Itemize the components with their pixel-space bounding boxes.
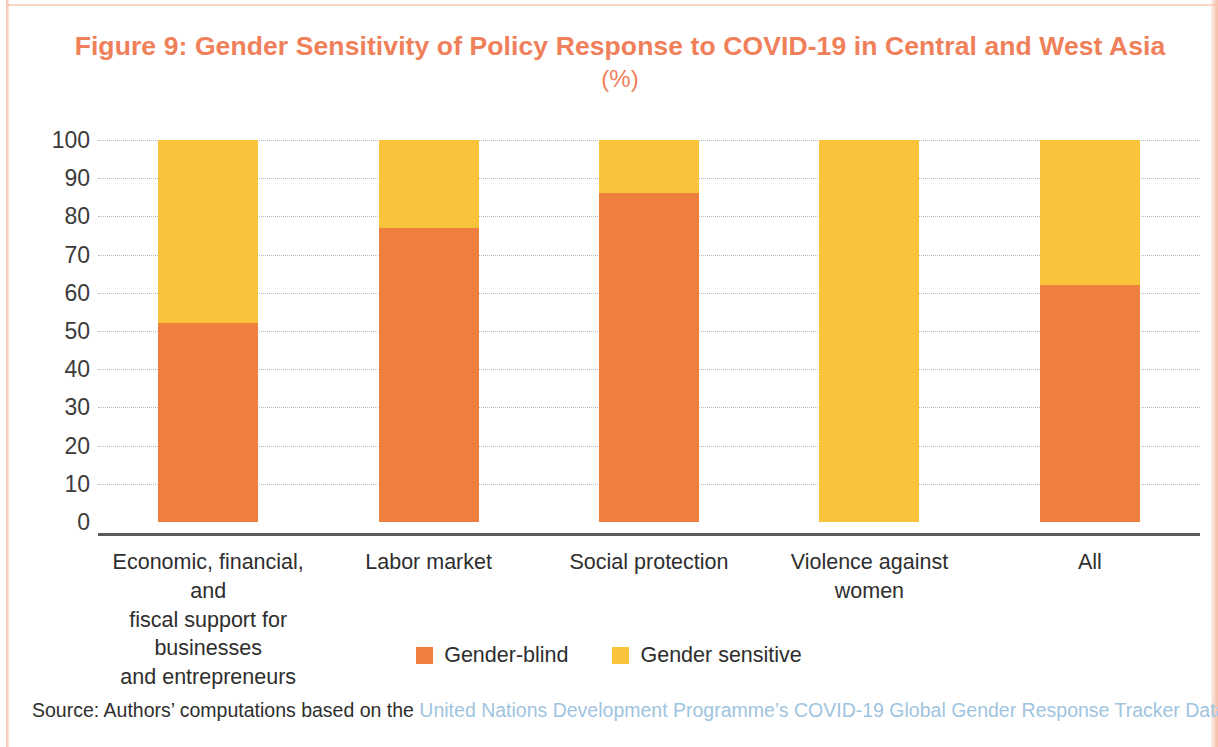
figure-page: Figure 9: Gender Sensitivity of Policy R…: [0, 0, 1218, 747]
bar-segment-gender-blind: [599, 193, 699, 522]
y-axis-tick-0: 0: [77, 509, 90, 536]
x-axis-label-1: Economic, financial, andfiscal support f…: [98, 548, 318, 692]
source-prefix: Source: Authors’ computations based on t…: [32, 699, 419, 721]
x-axis-label-line: women: [759, 577, 979, 606]
legend-label: Gender-blind: [444, 643, 568, 668]
legend-label: Gender sensitive: [640, 643, 801, 668]
bar-segment-gender-sensitive: [379, 140, 479, 228]
chart-plot-area: 0102030405060708090100: [0, 140, 1218, 560]
legend-swatch-gender-blind: [416, 647, 433, 664]
y-axis-tick-70: 70: [64, 241, 90, 268]
y-axis-tick-40: 40: [64, 356, 90, 383]
y-axis-tick-20: 20: [64, 432, 90, 459]
y-axis-tick-80: 80: [64, 203, 90, 230]
bar-segment-gender-sensitive: [158, 140, 258, 323]
x-axis-label-line: Violence against: [759, 548, 979, 577]
chart-legend: Gender-blindGender sensitive: [0, 643, 1218, 668]
bar-segment-gender-sensitive: [819, 140, 919, 522]
source-link[interactable]: United Nations Development Programme’s C…: [419, 699, 1218, 721]
x-axis-line: [98, 533, 1200, 536]
bar-column-1: [158, 140, 258, 522]
figure-title: Figure 9: Gender Sensitivity of Policy R…: [50, 30, 1190, 64]
bar-column-3: [599, 140, 699, 522]
x-axis-label-3: Social protection: [539, 548, 759, 577]
x-axis-label-2: Labor market: [318, 548, 538, 577]
x-axis-label-line: Labor market: [318, 548, 538, 577]
x-axis-label-line: Economic, financial, and: [98, 548, 318, 606]
x-axis-label-4: Violence againstwomen: [759, 548, 979, 606]
bar-segment-gender-sensitive: [599, 140, 699, 193]
legend-swatch-gender-sensitive: [612, 647, 629, 664]
x-axis-label-line: Social protection: [539, 548, 759, 577]
bar-column-4: [819, 140, 919, 522]
y-axis-tick-60: 60: [64, 279, 90, 306]
figure-title-block: Figure 9: Gender Sensitivity of Policy R…: [50, 30, 1190, 94]
y-axis-tick-100: 100: [52, 127, 90, 154]
legend-item[interactable]: Gender sensitive: [612, 643, 801, 668]
x-axis-label-line: All: [980, 548, 1200, 577]
y-axis-tick-30: 30: [64, 394, 90, 421]
y-axis-tick-50: 50: [64, 318, 90, 345]
legend-item[interactable]: Gender-blind: [416, 643, 568, 668]
bar-segment-gender-sensitive: [1040, 140, 1140, 285]
source-note: Source: Authors’ computations based on t…: [32, 698, 1202, 723]
bar-segment-gender-blind: [158, 323, 258, 522]
x-axis-label-5: All: [980, 548, 1200, 577]
stacked-bars: [98, 140, 1200, 522]
y-axis-tick-10: 10: [64, 470, 90, 497]
figure-subtitle: (%): [50, 64, 1190, 94]
y-axis-tick-90: 90: [64, 165, 90, 192]
x-axis-category-labels: Economic, financial, andfiscal support f…: [98, 548, 1200, 692]
bar-column-2: [379, 140, 479, 522]
page-edge-top: [6, 4, 1218, 6]
bar-segment-gender-blind: [379, 228, 479, 522]
bar-segment-gender-blind: [1040, 285, 1140, 522]
y-axis-ticks: 0102030405060708090100: [34, 140, 90, 536]
bar-column-5: [1040, 140, 1140, 522]
